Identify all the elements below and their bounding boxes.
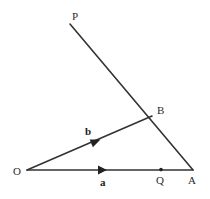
geometry-figure: O A B P Q a b [0,0,210,199]
point-label-a: A [188,175,196,186]
point-label-p: P [72,11,78,22]
point-q-dot [159,168,163,172]
segment-line-pa [70,24,193,170]
segments-group [27,24,193,170]
vector-b-arrowhead [90,139,101,147]
points-group [159,168,163,172]
point-label-o: O [13,166,21,177]
vector-label-a: a [100,177,106,188]
geometry-canvas [0,0,210,199]
arrowheads-group [90,139,107,174]
point-label-q: Q [156,175,164,186]
vector-a-arrowhead [98,166,107,175]
point-label-b: B [157,105,164,116]
vector-label-b: b [85,126,91,137]
